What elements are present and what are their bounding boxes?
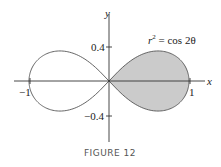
x-tick-label-neg1: −1 <box>19 86 31 98</box>
y-axis-label: y <box>104 7 110 19</box>
x-axis-label: x <box>206 75 212 87</box>
x-tick-label-1: 1 <box>189 86 195 98</box>
figure-caption: FIGURE 12 <box>84 148 136 158</box>
y-tick-label-neg04: −0.4 <box>84 110 104 122</box>
y-tick-label-04: 0.4 <box>91 41 105 53</box>
lemniscate-figure: y x −1 1 0.4 −0.4 r2 = cos 2θ FIGURE 12 <box>0 0 221 167</box>
equation-label: r2 = cos 2θ <box>148 33 196 46</box>
